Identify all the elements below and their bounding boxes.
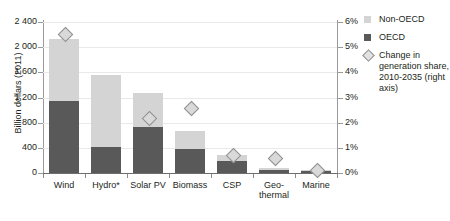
right-axis-tick-label: 5% [345, 42, 358, 51]
left-axis-tick [38, 123, 43, 124]
plot-area [43, 22, 337, 173]
right-axis-tick-label: 0% [345, 168, 358, 177]
bar-segment-oecd [133, 127, 163, 173]
right-axis-tick [338, 148, 343, 149]
legend-label-oecd: OECD [379, 32, 405, 42]
x-axis-label-line2: thermal [253, 190, 295, 200]
left-axis-tick [38, 98, 43, 99]
x-axis-label-csp: CSP [211, 180, 253, 190]
right-axis-tick [338, 123, 343, 124]
bar-biomass[interactable] [175, 22, 205, 173]
x-axis-tick [43, 174, 44, 178]
bar-solarpv[interactable] [133, 22, 163, 173]
left-axis-tick-label: 800 [22, 118, 37, 127]
legend-label-non-oecd: Non-OECD [379, 14, 425, 24]
x-axis-label-geo: Geo-thermal [253, 180, 295, 200]
x-axis-label-line1: Wind [43, 180, 85, 190]
bar-wind[interactable] [49, 22, 79, 173]
legend-swatch-oecd [364, 34, 371, 41]
left-axis-tick [38, 148, 43, 149]
bar-hydro[interactable] [91, 22, 121, 173]
right-axis-tick-label: 1% [345, 143, 358, 152]
left-axis-tick [38, 22, 43, 23]
left-axis-tick [38, 47, 43, 48]
right-axis-tick-label: 2% [345, 118, 358, 127]
right-axis-tick-label: 4% [345, 67, 358, 76]
bar-segment-non-oecd [175, 131, 205, 149]
bar-segment-oecd [259, 170, 289, 173]
legend-item-non-oecd[interactable]: Non-OECD [364, 14, 450, 25]
bar-segment-oecd [217, 161, 247, 173]
x-axis-label-wind: Wind [43, 180, 85, 190]
legend-item-oecd[interactable]: OECD [364, 32, 450, 43]
bar-segment-non-oecd [259, 168, 289, 170]
x-axis-label-line1: Geo- [253, 180, 295, 190]
bar-segment-oecd [49, 101, 79, 173]
legend-item-change-in-generation-share[interactable]: Change in generation share, 2010-2035 (r… [364, 50, 450, 94]
right-axis-tick [338, 72, 343, 73]
left-axis-tick-label: 2 400 [14, 17, 37, 26]
x-axis-label-line1: Solar PV [127, 180, 169, 190]
bar-segment-oecd [175, 149, 205, 173]
left-axis-tick-label: 0 [32, 168, 37, 177]
x-axis-tick [337, 174, 338, 178]
right-axis-tick-label: 6% [345, 17, 358, 26]
left-axis-tick-label: 2 000 [14, 42, 37, 51]
x-axis-label-hydro: Hydro* [85, 180, 127, 190]
x-axis-line [43, 173, 338, 174]
x-axis-tick [169, 174, 170, 178]
chart-legend: Non-OECD OECD Change in generation share… [364, 14, 450, 101]
x-axis-tick [85, 174, 86, 178]
x-axis-label-line1: Hydro* [85, 180, 127, 190]
left-axis-tick-label: 1 200 [14, 93, 37, 102]
left-axis-tick-label: 400 [22, 143, 37, 152]
right-axis-tick [338, 98, 343, 99]
bar-segment-non-oecd [49, 39, 79, 101]
x-axis-label-line1: CSP [211, 180, 253, 190]
chart-figure: 2012-2035 Billion dollars (2011) 2 4002 … [0, 0, 450, 221]
bar-marine[interactable] [301, 22, 331, 173]
left-axis-tick [38, 72, 43, 73]
x-axis-tick [127, 174, 128, 178]
left-axis-tick-label: 1 600 [14, 67, 37, 76]
x-axis-tick [295, 174, 296, 178]
bar-segment-oecd [91, 147, 121, 173]
legend-label-change: Change in generation share, 2010-2035 (r… [379, 50, 449, 93]
x-axis-label-line1: Marine [295, 180, 337, 190]
legend-swatch-non-oecd [364, 16, 371, 23]
x-axis-label-line1: Biomass [169, 180, 211, 190]
x-axis-tick [253, 174, 254, 178]
x-axis-label-biomass: Biomass [169, 180, 211, 190]
right-axis-tick [338, 22, 343, 23]
x-axis-tick [211, 174, 212, 178]
legend-diamond-icon [362, 49, 375, 62]
bar-segment-non-oecd [91, 75, 121, 146]
right-axis-tick-label: 3% [345, 93, 358, 102]
x-axis-label-marine: Marine [295, 180, 337, 190]
right-axis-tick [338, 47, 343, 48]
right-axis-tick [338, 173, 343, 174]
x-axis-label-solarpv: Solar PV [127, 180, 169, 190]
